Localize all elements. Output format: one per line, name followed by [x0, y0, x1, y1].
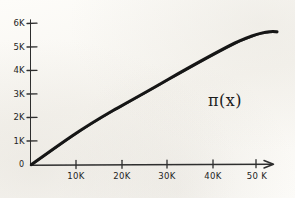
y-tick-label-3k: 3K [8, 89, 25, 99]
y-tick-label-5k: 5K [8, 42, 25, 52]
y-tick-label-1k: 1K [8, 136, 25, 146]
origin-label: 0 [19, 160, 24, 169]
series-annotation-pi-x: π(x) [208, 91, 242, 110]
y-tick-label-2k: 2K [8, 112, 25, 122]
x-axis [31, 161, 274, 169]
x-tick-label-10k: 10K [62, 171, 90, 181]
y-axis-ticks [27, 23, 37, 141]
x-tick-label-50k: 50 K [242, 171, 272, 181]
y-tick-label-6k: 6K [8, 18, 25, 28]
x-tick-label-30k: 30K [153, 171, 181, 181]
x-tick-label-40k: 40K [199, 171, 227, 181]
y-tick-label-4k: 4K [8, 65, 25, 75]
chart-canvas [0, 0, 295, 198]
y-axis [30, 20, 31, 166]
x-tick-label-20k: 20K [108, 171, 136, 181]
chart-page: 6K 5K 4K 3K 2K 1K 0 10K 20K 30K 40K 50 K… [0, 0, 295, 198]
